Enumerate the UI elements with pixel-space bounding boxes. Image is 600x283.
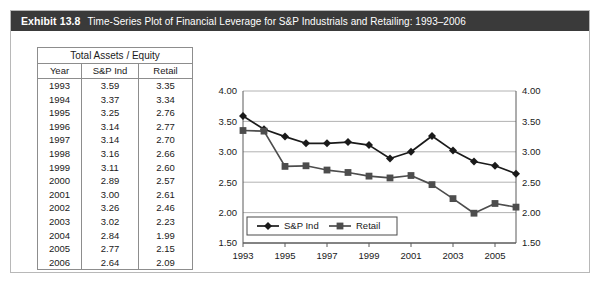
financial-leverage-table: Total Assets / Equity Year S&P Ind Retai…	[37, 47, 193, 270]
cell-retail: 2.23	[139, 215, 193, 229]
column-header-retail: Retail	[139, 64, 193, 79]
marker-diamond	[302, 139, 310, 147]
marker-square	[387, 175, 394, 182]
y-tick-label-right: 3.50	[522, 116, 541, 127]
marker-square	[261, 128, 268, 135]
marker-square	[513, 204, 520, 211]
chart-canvas: 1.501.502.002.002.502.503.003.003.503.50…	[207, 77, 581, 273]
cell-year: 1998	[38, 147, 82, 161]
cell-retail: 2.57	[139, 174, 193, 188]
cell-sp-ind: 2.84	[82, 229, 139, 243]
cell-sp-ind: 2.89	[82, 174, 139, 188]
column-header-sp-ind: S&P Ind	[82, 64, 139, 79]
x-tick-label: 2001	[400, 250, 421, 261]
cell-sp-ind: 3.14	[82, 120, 139, 134]
marker-square	[492, 200, 499, 207]
cell-year: 1999	[38, 161, 82, 175]
x-tick-label: 1993	[232, 250, 253, 261]
cell-retail: 2.77	[139, 120, 193, 134]
cell-sp-ind: 2.77	[82, 242, 139, 256]
cell-retail: 2.09	[139, 256, 193, 270]
cell-year: 1997	[38, 133, 82, 147]
x-tick-label: 2003	[442, 250, 463, 261]
cell-sp-ind: 3.02	[82, 215, 139, 229]
table-row: 19993.112.60	[38, 161, 193, 175]
table-row: 19963.142.77	[38, 120, 193, 134]
table-group-header: Total Assets / Equity	[38, 48, 193, 64]
table-row: 19983.162.66	[38, 147, 193, 161]
cell-retail: 3.34	[139, 93, 193, 107]
cell-year: 2000	[38, 174, 82, 188]
series-line-retail	[243, 131, 516, 214]
exhibit-header: Exhibit 13.8 Time-Series Plot of Financi…	[11, 11, 589, 31]
table-row: 20023.262.46	[38, 201, 193, 215]
table-row: 19933.593.35	[38, 79, 193, 93]
marker-square	[240, 127, 247, 134]
cell-retail: 1.99	[139, 229, 193, 243]
marker-square	[408, 172, 415, 179]
marker-diamond	[512, 170, 520, 178]
marker-square	[282, 163, 289, 170]
exhibit-title: Time-Series Plot of Financial Leverage f…	[88, 16, 466, 27]
cell-year: 1996	[38, 120, 82, 134]
table-row: 19943.373.34	[38, 93, 193, 107]
table-row: 20013.002.61	[38, 188, 193, 202]
marker-square	[303, 162, 310, 169]
cell-year: 1993	[38, 79, 82, 93]
time-series-chart: 1.501.502.002.002.502.503.003.003.503.50…	[207, 77, 581, 273]
cell-retail: 2.66	[139, 147, 193, 161]
y-tick-label-left: 2.00	[219, 207, 238, 218]
marker-diamond	[239, 112, 247, 120]
column-header-year: Year	[38, 64, 82, 79]
marker-diamond	[323, 139, 331, 147]
table-row: 20002.892.57	[38, 174, 193, 188]
cell-retail: 2.76	[139, 106, 193, 120]
marker-diamond	[344, 138, 352, 146]
exhibit-number: Exhibit 13.8	[21, 15, 81, 27]
legend-label: Retail	[356, 220, 380, 231]
cell-retail: 2.46	[139, 201, 193, 215]
cell-retail: 2.61	[139, 188, 193, 202]
y-tick-label-right: 4.00	[522, 85, 541, 96]
y-tick-label-left: 3.50	[219, 116, 238, 127]
cell-sp-ind: 3.26	[82, 201, 139, 215]
cell-year: 1995	[38, 106, 82, 120]
y-tick-label-right: 1.50	[522, 237, 541, 248]
x-tick-label: 1995	[274, 250, 295, 261]
y-tick-label-right: 2.00	[522, 207, 541, 218]
cell-year: 2001	[38, 188, 82, 202]
cell-sp-ind: 3.16	[82, 147, 139, 161]
cell-year: 2005	[38, 242, 82, 256]
marker-diamond	[491, 162, 499, 170]
exhibit-container: Exhibit 13.8 Time-Series Plot of Financi…	[10, 10, 590, 273]
cell-sp-ind: 3.00	[82, 188, 139, 202]
marker-square	[345, 169, 352, 176]
x-tick-label: 2005	[484, 250, 505, 261]
table-row: 19973.142.70	[38, 133, 193, 147]
marker-square	[324, 167, 331, 174]
y-tick-label-right: 2.50	[522, 177, 541, 188]
table-row: 20033.022.23	[38, 215, 193, 229]
marker-diamond	[386, 154, 394, 162]
cell-year: 2003	[38, 215, 82, 229]
marker-diamond	[281, 133, 289, 141]
marker-diamond	[365, 141, 373, 149]
table-row: 19953.252.76	[38, 106, 193, 120]
cell-sp-ind: 3.14	[82, 133, 139, 147]
legend-label: S&P Ind	[284, 220, 319, 231]
marker-square	[429, 181, 436, 188]
table-header-row: Year S&P Ind Retail	[38, 64, 193, 79]
cell-retail: 2.15	[139, 242, 193, 256]
cell-retail: 2.60	[139, 161, 193, 175]
cell-sp-ind: 3.37	[82, 93, 139, 107]
table-row: 20042.841.99	[38, 229, 193, 243]
cell-year: 2006	[38, 256, 82, 270]
cell-retail: 2.70	[139, 133, 193, 147]
table-row: 20062.642.09	[38, 256, 193, 270]
y-tick-label-left: 3.00	[219, 146, 238, 157]
cell-retail: 3.35	[139, 79, 193, 93]
table-row: 20052.772.15	[38, 242, 193, 256]
cell-year: 2004	[38, 229, 82, 243]
x-tick-label: 1999	[358, 250, 379, 261]
marker-square	[450, 195, 457, 202]
